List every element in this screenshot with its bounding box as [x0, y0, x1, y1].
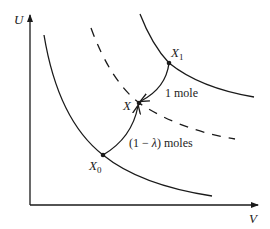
- dashed-curve: [91, 28, 235, 139]
- lower-solid-curve: [44, 35, 212, 196]
- annotation-lambda-close: ) moles: [157, 136, 193, 150]
- upper-solid-curve: [140, 14, 254, 97]
- label-x0-sub: 0: [97, 165, 102, 175]
- point-x: [137, 101, 142, 106]
- y-axis-label: U: [14, 12, 25, 27]
- label-x1-sub: 1: [179, 52, 184, 62]
- label-x0: X0: [88, 158, 102, 175]
- label-x: X: [122, 98, 132, 113]
- annotation-lambda-open: (1 −: [129, 136, 152, 150]
- diagram-canvas: U V X1 X X0 1 mole (1 − λ) moles: [0, 0, 270, 229]
- annotation-one-mole: 1 mole: [165, 86, 198, 100]
- point-x0: [101, 153, 106, 158]
- x-axis-label: V: [249, 211, 259, 226]
- point-x1: [167, 61, 172, 66]
- annotation-lambda-moles: (1 − λ) moles: [129, 136, 193, 150]
- label-x1: X1: [170, 45, 183, 62]
